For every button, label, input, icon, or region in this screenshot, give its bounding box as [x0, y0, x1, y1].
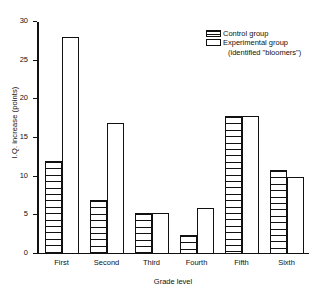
- y-tick-30: 30: [33, 21, 37, 22]
- y-tick-label: 15: [20, 132, 28, 141]
- y-tick-label: 25: [20, 55, 28, 64]
- y-tick-0: 0: [33, 253, 37, 254]
- bar-control-fourth: [180, 235, 197, 254]
- legend-item-experimental: Experimental group: [206, 38, 301, 47]
- bar-experimental-fifth: [242, 116, 259, 254]
- y-axis-title: I.Q. increase (points): [10, 63, 19, 183]
- y-tick-label: 0: [24, 248, 28, 257]
- legend-label-experimental: Experimental group: [223, 38, 288, 47]
- bar-experimental-third: [152, 213, 169, 254]
- bar-control-fifth: [225, 116, 242, 254]
- y-tick-10: 10: [33, 176, 37, 177]
- y-tick-20: 20: [33, 98, 37, 99]
- bar-experimental-second: [107, 123, 124, 254]
- x-tick-label-fourth: Fourth: [174, 258, 219, 267]
- legend-label-control: Control group: [223, 29, 268, 38]
- bar-group-second: Second: [84, 22, 129, 254]
- chart-legend: Control group Experimental group (identi…: [206, 29, 301, 57]
- legend-label-experimental-sub: (identified "bloomers"): [206, 48, 301, 57]
- bar-experimental-fourth: [197, 208, 214, 254]
- bar-control-second: [90, 200, 107, 254]
- y-tick-label: 10: [20, 171, 28, 180]
- y-tick-label: 5: [24, 209, 28, 218]
- legend-swatch-experimental-icon: [206, 39, 221, 46]
- x-tick-label-second: Second: [84, 258, 129, 267]
- x-tick-label-first: First: [39, 258, 84, 267]
- legend-item-control: Control group: [206, 29, 301, 38]
- bar-group-third: Third: [129, 22, 174, 254]
- x-tick-label-third: Third: [129, 258, 174, 267]
- bar-control-sixth: [270, 170, 287, 254]
- y-tick-25: 25: [33, 60, 37, 61]
- bar-experimental-sixth: [287, 177, 304, 254]
- x-tick-label-fifth: Fifth: [219, 258, 264, 267]
- y-tick-label: 30: [20, 16, 28, 25]
- x-tick-label-sixth: Sixth: [264, 258, 309, 267]
- y-tick-label: 20: [20, 93, 28, 102]
- x-axis-title: Grade level: [37, 277, 309, 286]
- bar-control-first: [45, 161, 62, 254]
- bar-group-first: First: [39, 22, 84, 254]
- legend-swatch-control-icon: [206, 30, 221, 37]
- y-tick-15: 15: [33, 137, 37, 138]
- bar-control-third: [135, 213, 152, 254]
- y-tick-5: 5: [33, 214, 37, 215]
- iq-increase-bar-chart: I.Q. increase (points) 051015202530 Firs…: [0, 0, 321, 294]
- bar-experimental-first: [62, 37, 79, 254]
